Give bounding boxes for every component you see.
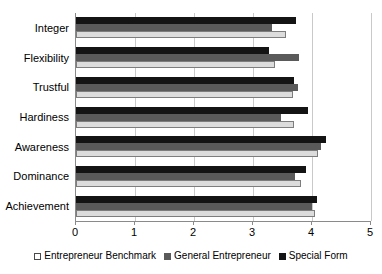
bar <box>76 31 286 38</box>
gridline <box>312 13 313 221</box>
bar <box>76 180 301 187</box>
bar <box>76 203 312 210</box>
legend-item: Special Form <box>279 250 348 262</box>
gridline <box>371 13 372 221</box>
x-tick-mark <box>370 221 371 225</box>
bar <box>76 210 315 217</box>
legend-item: Entrepreneur Benchmark <box>34 250 156 262</box>
legend-swatch-icon <box>279 253 286 260</box>
x-tick-label: 3 <box>242 226 262 239</box>
bar <box>76 114 281 121</box>
category-label: Dominance <box>0 170 69 182</box>
category-label: Integer <box>0 22 69 34</box>
legend-item: General Entrepreneur <box>164 250 271 262</box>
bar <box>76 107 308 114</box>
chart-legend: Entrepreneur BenchmarkGeneral Entreprene… <box>0 250 382 262</box>
plot-area <box>75 13 370 221</box>
bar <box>76 173 295 180</box>
bar <box>76 17 296 24</box>
bar-chart: 012345 IntegerFlexibilityTrustfulHardine… <box>0 0 382 274</box>
bar <box>76 84 298 91</box>
category-label: Flexibility <box>0 52 69 64</box>
legend-label: Entrepreneur Benchmark <box>44 250 156 262</box>
legend-label: Special Form <box>289 250 348 262</box>
legend-swatch-icon <box>34 253 41 260</box>
x-tick-label: 1 <box>124 226 144 239</box>
bar <box>76 24 272 31</box>
legend-swatch-icon <box>164 253 171 260</box>
bar <box>76 143 321 150</box>
x-tick-mark <box>193 221 194 225</box>
x-tick-label: 5 <box>360 226 380 239</box>
bar <box>76 77 294 84</box>
legend-label: General Entrepreneur <box>174 250 271 262</box>
category-label: Achievement <box>0 200 69 212</box>
category-label: Hardiness <box>0 111 69 123</box>
bar <box>76 47 269 54</box>
x-tick-label: 4 <box>301 226 321 239</box>
bar <box>76 136 326 143</box>
bar <box>76 196 317 203</box>
category-label: Awareness <box>0 141 69 153</box>
category-label: Trustful <box>0 81 69 93</box>
x-tick-mark <box>134 221 135 225</box>
x-tick-label: 0 <box>65 226 85 239</box>
bar <box>76 121 294 128</box>
bar <box>76 150 318 157</box>
bar <box>76 61 275 68</box>
bar <box>76 91 293 98</box>
x-tick-label: 2 <box>183 226 203 239</box>
x-axis-line <box>75 221 371 222</box>
bar <box>76 54 299 61</box>
x-tick-mark <box>252 221 253 225</box>
x-tick-mark <box>75 221 76 225</box>
bar <box>76 166 306 173</box>
x-tick-mark <box>311 221 312 225</box>
